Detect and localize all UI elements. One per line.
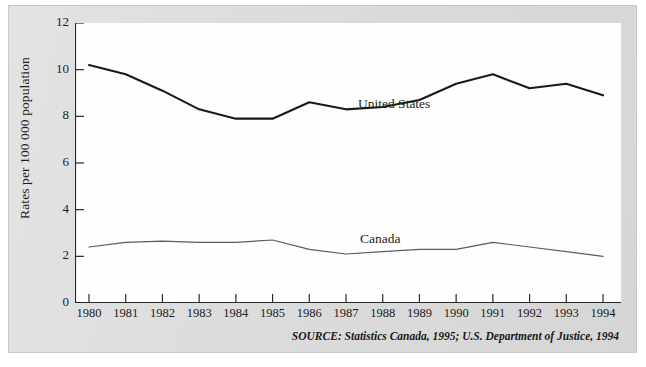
figure-panel: Rates per 100 000 population 024681012 U…	[8, 5, 637, 353]
y-tick-label: 4	[43, 201, 69, 217]
y-axis-title: Rates per 100 000 population	[17, 18, 33, 258]
series-line-canada	[89, 240, 603, 256]
y-tick-label: 8	[43, 107, 69, 123]
line-chart-svg	[75, 23, 621, 303]
series-line-united-states	[89, 65, 603, 119]
x-tick-label: 1994	[580, 306, 626, 321]
axis-lines	[75, 23, 621, 303]
y-tick-label: 10	[43, 61, 69, 77]
series-label-united-states: United States	[358, 96, 430, 112]
source-note: SOURCE: Statistics Canada, 1995; U.S. De…	[292, 330, 619, 342]
y-tick-label: 12	[43, 14, 69, 30]
plot-area: United States Canada	[75, 23, 621, 303]
x-axis-tick-labels: 1980198119821983198419851986198719881989…	[75, 306, 621, 328]
x-axis-ticks	[89, 294, 603, 302]
y-tick-label: 2	[43, 247, 69, 263]
y-tick-label: 6	[43, 154, 69, 170]
series-lines	[89, 65, 603, 256]
y-axis-ticks	[76, 23, 84, 303]
y-axis-tick-labels: 024681012	[39, 23, 69, 303]
series-label-canada: Canada	[360, 231, 400, 247]
